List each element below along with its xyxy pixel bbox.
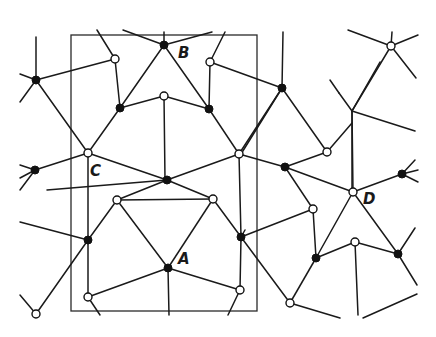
bond-edge	[168, 199, 213, 268]
bond-edge	[36, 59, 115, 80]
bond-edge	[241, 237, 290, 303]
bond-edge	[313, 209, 316, 258]
bond-edge	[353, 192, 398, 254]
open-node	[84, 293, 92, 301]
open-node	[351, 238, 359, 246]
open-node	[84, 149, 92, 157]
bond-edge	[352, 62, 380, 111]
open-node	[387, 42, 395, 50]
bond-edge	[327, 123, 352, 152]
filled-node	[398, 170, 406, 178]
bond-edge	[164, 96, 209, 109]
open-node	[209, 195, 217, 203]
bond-edge	[168, 268, 169, 315]
open-node	[113, 196, 121, 204]
bond-edge	[241, 209, 313, 237]
filled-node	[237, 233, 245, 241]
bond-edge	[290, 303, 340, 318]
bond-edge	[339, 93, 352, 111]
filled-node	[312, 254, 320, 262]
bond-edge	[117, 199, 213, 200]
open-atom-nodes	[32, 42, 395, 318]
bond-edge	[391, 46, 416, 78]
bond-edge	[285, 167, 313, 209]
label-d: D	[363, 190, 375, 208]
bond-edge	[352, 111, 415, 131]
label-c: C	[90, 162, 101, 180]
bond-edge	[36, 80, 88, 153]
bond-edge	[115, 59, 120, 108]
bond-edge	[316, 242, 355, 258]
bond-edge	[35, 153, 88, 170]
bond-edge	[168, 268, 240, 290]
filled-node	[394, 250, 402, 258]
bond-edge	[282, 88, 327, 152]
bond-edge	[88, 200, 117, 240]
filled-node	[31, 166, 39, 174]
bond-edge	[20, 222, 88, 240]
bond-edge	[348, 30, 391, 46]
lattice-diagram: A B C D	[0, 0, 436, 337]
open-node	[206, 58, 214, 66]
filled-node	[281, 163, 289, 171]
bond-edge	[209, 109, 239, 154]
open-node	[309, 205, 317, 213]
open-node	[349, 188, 357, 196]
filled-node	[160, 41, 168, 49]
open-node	[235, 150, 243, 158]
bond-edge	[239, 88, 282, 154]
open-node	[236, 286, 244, 294]
bond-edge	[355, 242, 398, 254]
bond-edge	[210, 62, 282, 88]
bond-edge	[363, 294, 417, 318]
filled-node	[116, 104, 124, 112]
filled-node	[278, 84, 286, 92]
bond-edge	[164, 96, 165, 180]
bond-edge	[209, 62, 210, 109]
bond-edge	[167, 180, 213, 199]
bond-edge	[210, 32, 225, 62]
bond-edge	[285, 167, 353, 192]
bond-edge	[167, 154, 239, 180]
open-node	[286, 299, 294, 307]
bond-edge	[285, 152, 327, 167]
bond-edge	[282, 32, 283, 88]
label-b: B	[178, 44, 189, 62]
bond-edge	[290, 258, 316, 303]
bond-edges	[20, 30, 418, 318]
filled-node	[32, 76, 40, 84]
bond-edge	[330, 80, 339, 93]
open-node	[32, 310, 40, 318]
open-node	[160, 92, 168, 100]
bond-edge	[352, 111, 353, 192]
bond-edge	[355, 242, 358, 315]
bond-edge	[88, 108, 120, 153]
bond-edge	[239, 154, 241, 237]
bond-edge	[213, 199, 241, 237]
filled-node	[205, 105, 213, 113]
open-node	[323, 148, 331, 156]
open-node	[111, 55, 119, 63]
bond-edge	[240, 237, 241, 290]
bond-edge	[316, 192, 353, 258]
bond-edge	[123, 30, 164, 45]
bond-edge	[47, 180, 167, 190]
bond-edge	[88, 268, 168, 297]
bond-edge	[353, 174, 402, 192]
bond-edge	[239, 154, 285, 167]
filled-node	[84, 236, 92, 244]
lattice-canvas: A B C D	[0, 0, 436, 337]
filled-node	[164, 264, 172, 272]
label-a: A	[177, 250, 190, 268]
bond-edge	[36, 240, 88, 314]
bond-edge	[117, 200, 168, 268]
bond-edge	[398, 228, 415, 254]
filled-node	[163, 176, 171, 184]
bond-edge	[398, 254, 417, 285]
